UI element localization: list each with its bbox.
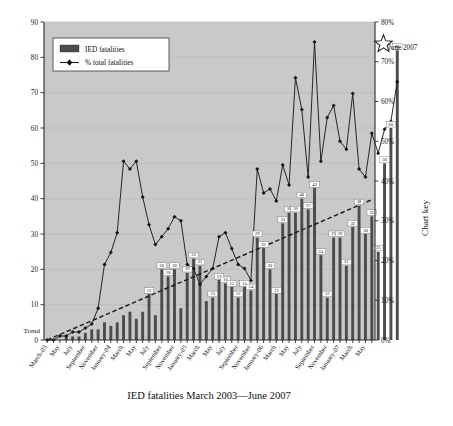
bar [339, 238, 342, 340]
bar [389, 128, 392, 340]
bar-data-label: 21 [198, 259, 203, 264]
bar-data-label: 21 [344, 259, 349, 264]
bar [211, 298, 214, 340]
y-tick-left: 60 [31, 125, 39, 133]
bar [377, 252, 380, 340]
bar-data-label: 33 [280, 217, 285, 222]
bar-data-label: 20 [159, 263, 164, 268]
y-tick-right: 20% [381, 257, 394, 265]
bar-data-label: 13 [147, 288, 152, 293]
annotation-label: June 2007 [388, 44, 418, 52]
y-tick-left: 50 [31, 160, 39, 168]
bar [281, 223, 284, 340]
bar [230, 287, 233, 340]
bar-data-label: 29 [255, 231, 260, 236]
bar [396, 50, 399, 340]
bar-data-label: 60 [389, 122, 394, 127]
bar [109, 326, 112, 340]
bar-data-label: 50 [382, 157, 387, 162]
bar-data-label: 40 [300, 192, 305, 197]
y-tick-left: 30 [31, 231, 39, 239]
bar [186, 273, 189, 340]
bar-data-label: 23 [191, 252, 196, 257]
bar [135, 319, 138, 340]
bar [288, 213, 291, 340]
bar-data-label: 30 [363, 228, 368, 233]
bar [160, 269, 163, 340]
bar [256, 238, 259, 340]
bar [84, 333, 87, 340]
bar-data-label: 35 [370, 210, 375, 215]
bar-data-label: 12 [210, 291, 215, 296]
bar [358, 206, 361, 340]
bar-data-label: 14 [249, 284, 254, 289]
bar-data-label: 43 [312, 182, 317, 187]
bar-data-label: 12 [325, 291, 330, 296]
bar-data-label: 20 [268, 263, 273, 268]
bar-data-label: 24 [319, 249, 324, 254]
chart-figure: 1320182019232112171615121514292620133336… [0, 0, 453, 426]
y-tick-right: 70% [381, 58, 394, 66]
bar [269, 269, 272, 340]
legend-swatch-bar [60, 45, 79, 52]
y-tick-left: 0 [34, 337, 38, 345]
bar-data-label: 32 [350, 221, 355, 226]
bar [262, 248, 265, 340]
y-tick-right: 30% [381, 217, 394, 225]
bar [116, 322, 119, 340]
y-tick-right: 80% [381, 19, 394, 27]
bar [173, 269, 176, 340]
bar [237, 298, 240, 340]
bar [179, 308, 182, 340]
bar [370, 216, 373, 340]
legend: IED fatalities % total fatalities [53, 38, 169, 71]
bar [307, 209, 310, 340]
legend-label-percent-total-fatalities: % total fatalities [85, 58, 134, 67]
bar [205, 301, 208, 340]
y-tick-right: 50% [381, 138, 394, 146]
chart-svg: 1320182019232112171615121514292620133336… [0, 0, 453, 426]
bar [218, 280, 221, 340]
bar-data-label: 20 [172, 263, 177, 268]
bar-data-label: 25 [376, 245, 381, 250]
y-tick-right: 10% [381, 297, 394, 305]
bar [141, 312, 144, 340]
y-tick-left: 80 [31, 54, 39, 62]
bar [319, 255, 322, 340]
bar [128, 312, 131, 340]
y-tick-right: 60% [381, 98, 394, 106]
y-tick-left: 10 [31, 301, 39, 309]
y-tick-right: 0% [381, 337, 391, 345]
bar-data-label: 26 [261, 242, 266, 247]
bar [198, 266, 201, 340]
bar [364, 234, 367, 340]
bar-data-label: 36 [293, 206, 298, 211]
bar [148, 294, 151, 340]
bar [122, 315, 125, 340]
bar [224, 283, 227, 340]
bar [345, 266, 348, 340]
bar [313, 188, 316, 340]
bar [351, 227, 354, 340]
bar-data-label: 13 [274, 288, 279, 293]
bar [167, 276, 170, 340]
bar-data-label: 18 [166, 270, 171, 275]
bar [103, 322, 106, 340]
bar [275, 294, 278, 340]
bar [154, 315, 157, 340]
chart-title: IED fatalities March 2003—June 2007 [127, 390, 290, 401]
bar [383, 163, 386, 340]
y-tick-left: 40 [31, 195, 39, 203]
y-tick-right: 40% [381, 178, 394, 186]
bar-data-label: 38 [357, 199, 362, 204]
y-tick-left: 70 [31, 89, 39, 97]
bar [249, 291, 252, 340]
bar [97, 329, 100, 340]
bar [90, 329, 93, 340]
bar-data-label: 19 [185, 266, 190, 271]
y-tick-left: 20 [31, 266, 39, 274]
bar [300, 199, 303, 340]
bar-data-label: 12 [236, 291, 241, 296]
bar [326, 298, 329, 340]
trend-label: Trend [24, 327, 41, 335]
